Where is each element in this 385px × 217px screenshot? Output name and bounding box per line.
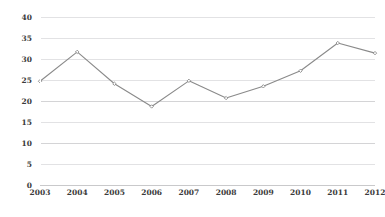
x-axis-tick-label: 2003 — [30, 188, 51, 197]
y-axis-tick-label: 30 — [22, 55, 32, 64]
series-1-line — [40, 43, 375, 106]
x-axis-tick-label: 2006 — [141, 188, 162, 197]
data-point-marker — [262, 85, 265, 88]
plot-area — [40, 17, 375, 185]
series-line-group — [40, 17, 375, 185]
y-axis-tick-label: 5 — [27, 160, 32, 169]
y-axis-tick-label: 35 — [22, 34, 32, 43]
x-axis-tick-label: 2009 — [253, 188, 274, 197]
x-axis-tick-label: 2012 — [365, 188, 385, 197]
gridline — [40, 185, 375, 186]
y-axis-tick-label: 40 — [22, 13, 32, 22]
chart-title — [30, 0, 330, 8]
x-axis-tick-label: 2011 — [327, 188, 348, 197]
data-point-marker — [373, 51, 376, 54]
y-axis-tick-label: 25 — [22, 76, 32, 85]
x-axis-tick-label: 2008 — [216, 188, 237, 197]
x-axis-tick-label: 2005 — [104, 188, 125, 197]
x-axis-tick-label: 2004 — [67, 188, 88, 197]
data-point-marker — [224, 96, 227, 99]
y-axis-tick-label: 15 — [22, 118, 32, 127]
x-axis: 2003200420052006200720082009201020112012 — [40, 188, 375, 202]
x-axis-tick-label: 2007 — [178, 188, 199, 197]
y-axis: 4035302520151050 — [0, 0, 40, 217]
y-axis-tick-label: 20 — [22, 97, 32, 106]
x-axis-tick-label: 2010 — [290, 188, 311, 197]
y-axis-tick-label: 10 — [22, 139, 32, 148]
y-axis-rule — [40, 17, 41, 185]
